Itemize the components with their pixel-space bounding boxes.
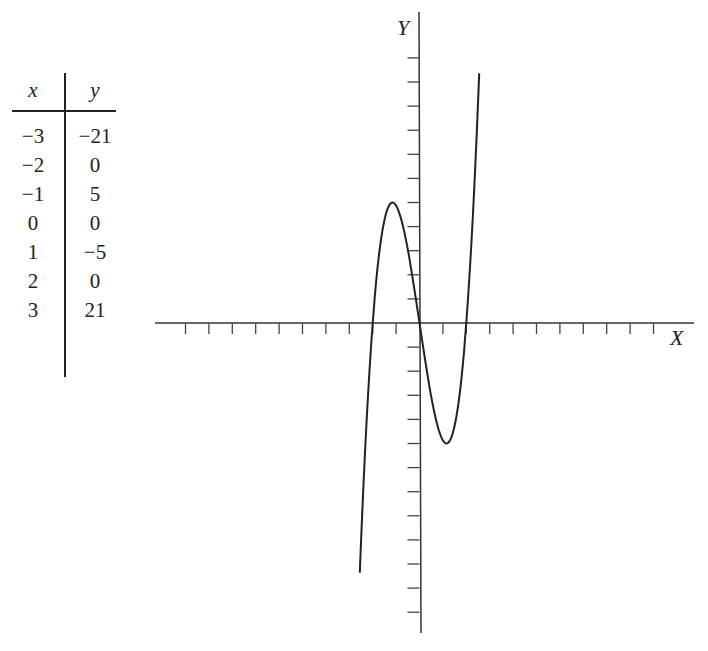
- graph: [0, 0, 708, 651]
- y-axis-label: Y: [397, 15, 409, 41]
- y-ticks: [408, 58, 420, 612]
- x-axis-label: X: [670, 325, 683, 351]
